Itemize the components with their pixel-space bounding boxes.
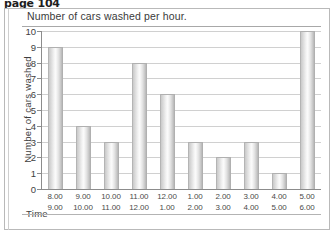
x-axis-tick-label: 2.003.00 bbox=[209, 192, 237, 213]
y-axis-tick bbox=[37, 47, 41, 48]
bars-group bbox=[42, 31, 321, 189]
x-axis-tick-label-start: 1.00 bbox=[181, 192, 209, 203]
x-axis-tick-label: 3.004.00 bbox=[237, 192, 265, 213]
bar-slot bbox=[98, 31, 126, 189]
worksheet-bottom-rule bbox=[22, 214, 321, 215]
bar-slot bbox=[237, 31, 265, 189]
y-axis-tick-label: 4 bbox=[31, 120, 36, 131]
bar bbox=[160, 94, 175, 189]
x-axis-tick-label-end: 10.00 bbox=[69, 203, 97, 214]
y-axis-tick bbox=[37, 78, 41, 79]
x-axis-tick-label-start: 5.00 bbox=[293, 192, 321, 203]
bar-slot bbox=[265, 31, 293, 189]
x-axis-tick-label-end: 11.00 bbox=[97, 203, 125, 214]
bar bbox=[104, 142, 119, 189]
y-axis-tick-label: 3 bbox=[31, 136, 36, 147]
bar bbox=[244, 142, 259, 189]
x-axis-tick-label-end: 2.00 bbox=[181, 203, 209, 214]
x-axis-tick-label: 12.001.00 bbox=[153, 192, 181, 213]
x-axis-tick-label: 4.005.00 bbox=[265, 192, 293, 213]
bar-slot bbox=[70, 31, 98, 189]
x-axis-tick-label-start: 12.00 bbox=[153, 192, 181, 203]
x-axis-tick-label: 11.0012.00 bbox=[125, 192, 153, 213]
y-axis-tick bbox=[37, 63, 41, 64]
x-axis-tick-label: 1.002.00 bbox=[181, 192, 209, 213]
y-axis-tick bbox=[37, 126, 41, 127]
y-axis-tick-label: 6 bbox=[31, 89, 36, 100]
bar bbox=[216, 157, 231, 189]
bar-slot bbox=[209, 31, 237, 189]
y-axis-tick-label: 0 bbox=[31, 184, 36, 195]
y-axis-tick-label: 8 bbox=[31, 57, 36, 68]
x-axis-tick-label-end: 1.00 bbox=[153, 203, 181, 214]
bar-slot bbox=[293, 31, 321, 189]
y-axis-tick bbox=[37, 189, 41, 190]
bar-slot bbox=[126, 31, 154, 189]
y-axis-tick bbox=[37, 94, 41, 95]
bar bbox=[300, 31, 315, 189]
x-axis-tick-label-start: 10.00 bbox=[97, 192, 125, 203]
x-axis-tick-label-start: 11.00 bbox=[125, 192, 153, 203]
y-axis-tick bbox=[37, 173, 41, 174]
x-axis-tick-label-start: 4.00 bbox=[265, 192, 293, 203]
y-axis-tick bbox=[37, 157, 41, 158]
title-underline bbox=[22, 26, 321, 27]
x-axis-tick-label-end: 6.00 bbox=[293, 203, 321, 214]
chart-title: Number of cars washed per hour. bbox=[27, 10, 187, 22]
bar bbox=[188, 142, 203, 189]
bar-slot bbox=[182, 31, 210, 189]
x-axis-tick-label: 9.0010.00 bbox=[69, 192, 97, 213]
bar-slot bbox=[154, 31, 182, 189]
x-axis-tick-label: 5.006.00 bbox=[293, 192, 321, 213]
bar bbox=[76, 126, 91, 189]
x-axis-tick-label-start: 2.00 bbox=[209, 192, 237, 203]
plot-axes: 012345678910 bbox=[41, 31, 321, 190]
y-axis-tick bbox=[37, 110, 41, 111]
bar-slot bbox=[42, 31, 70, 189]
x-axis-tick-label-start: 3.00 bbox=[237, 192, 265, 203]
y-axis-tick-label: 7 bbox=[31, 73, 36, 84]
bar bbox=[132, 63, 147, 189]
bar bbox=[48, 47, 63, 189]
bar bbox=[272, 173, 287, 189]
x-axis-tick-label-end: 12.00 bbox=[125, 203, 153, 214]
y-axis-tick bbox=[37, 31, 41, 32]
y-axis-tick-label: 1 bbox=[31, 168, 36, 179]
x-axis-tick-label-end: 4.00 bbox=[237, 203, 265, 214]
x-axis-tick-label-start: 8.00 bbox=[41, 192, 69, 203]
y-axis-tick-label: 10 bbox=[25, 26, 36, 37]
gridline bbox=[42, 189, 321, 190]
chart-plot-area: 012345678910 bbox=[41, 31, 321, 190]
x-axis-tick-label: 10.0011.00 bbox=[97, 192, 125, 213]
y-axis-tick-label: 5 bbox=[31, 105, 36, 116]
y-axis-tick-label: 2 bbox=[31, 152, 36, 163]
x-axis-tick-labels: 8.009.009.0010.0010.0011.0011.0012.0012.… bbox=[41, 192, 321, 213]
x-axis-tick-label-end: 3.00 bbox=[209, 203, 237, 214]
y-axis-tick bbox=[37, 142, 41, 143]
y-axis-tick-label: 9 bbox=[31, 41, 36, 52]
worksheet-left-rule bbox=[8, 9, 9, 230]
x-axis-tick-label-end: 5.00 bbox=[265, 203, 293, 214]
x-axis-tick-label-start: 9.00 bbox=[69, 192, 97, 203]
